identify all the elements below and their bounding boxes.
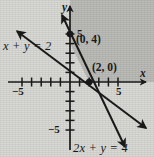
point-label-2-0: (2, 0) bbox=[92, 62, 117, 74]
y-axis-label: y bbox=[62, 2, 67, 14]
x-axis-label: x bbox=[140, 68, 146, 80]
x-axis-tick-label-negative-5: −5 bbox=[12, 86, 24, 97]
graph-figure: x + y = 2 2x + y = 4 y x −5 5 5 −5 (0, 4… bbox=[0, 0, 154, 157]
point-marker-2-0 bbox=[86, 79, 93, 86]
coordinate-plane-svg bbox=[0, 0, 154, 157]
point-marker-0-4 bbox=[67, 31, 74, 38]
point-label-0-4: (0, 4) bbox=[76, 34, 101, 46]
x-axis-tick-label-positive-5: 5 bbox=[116, 86, 122, 97]
equation-label-line2: 2x + y = 4 bbox=[73, 142, 128, 155]
equation-label-line1: x + y = 2 bbox=[3, 40, 52, 53]
y-axis-tick-label-negative-5: −5 bbox=[48, 124, 60, 135]
